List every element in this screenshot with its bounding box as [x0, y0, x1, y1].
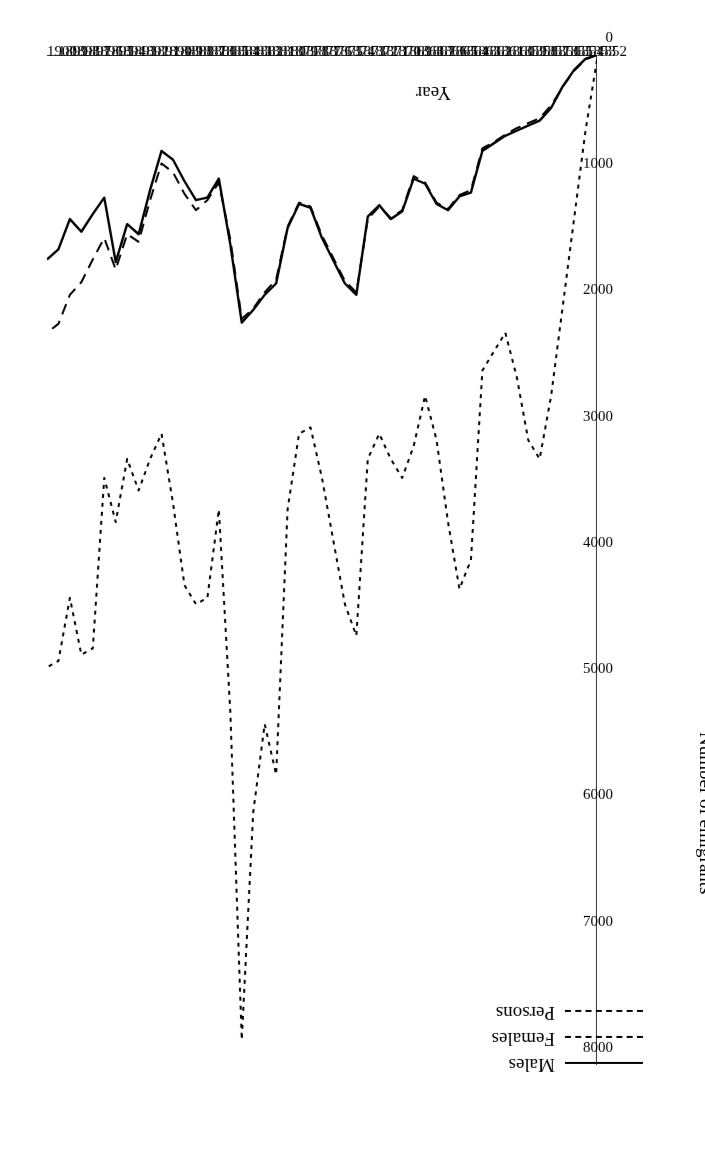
- y-tick-label: 4000: [543, 535, 613, 552]
- y-tick-label: 3000: [543, 408, 613, 425]
- plot-area: 010002000300040005000600070008000 185218…: [47, 55, 597, 1065]
- y-tick-label: 7000: [543, 913, 613, 930]
- y-axis-title: Number of emigrants: [695, 732, 705, 895]
- chart-svg: [47, 55, 597, 1065]
- rotated-chart-canvas: Number of emigrants Year Males Females P…: [0, 0, 705, 1172]
- y-tick-label: 6000: [543, 787, 613, 804]
- y-tick-label: 5000: [543, 661, 613, 678]
- y-tick-label: 1000: [543, 156, 613, 173]
- y-tick-label: 8000: [543, 1040, 613, 1057]
- y-tick-label: 2000: [543, 282, 613, 299]
- x-tick-label: 1900: [47, 43, 77, 60]
